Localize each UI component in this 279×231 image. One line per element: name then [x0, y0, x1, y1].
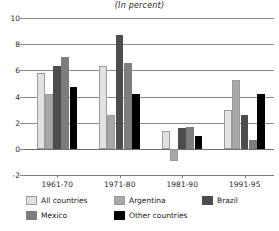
- bar: [162, 131, 170, 149]
- legend-swatch-icon: [114, 196, 125, 205]
- y-tick-mark-10: [20, 18, 24, 19]
- y-tick-label: 0: [15, 144, 20, 153]
- y-tick-mark-8: [20, 44, 24, 45]
- legend-item[interactable]: Argentina: [114, 196, 166, 205]
- legend-swatch-icon: [26, 211, 37, 220]
- bar-chart: (In percent) -20246810 1961-701971-80198…: [0, 0, 279, 231]
- x-tick-mark: [57, 175, 58, 178]
- legend-swatch-icon: [202, 196, 213, 205]
- bar: [249, 140, 257, 149]
- x-axis-line: [24, 175, 274, 176]
- legend-item[interactable]: Brazil: [202, 196, 238, 205]
- y-tick-mark-2: [20, 123, 24, 124]
- chart-title: (In percent): [0, 1, 279, 10]
- y-tick-label: 4: [15, 92, 20, 101]
- x-tick-label: 1971-80: [104, 180, 135, 189]
- bar: [132, 94, 140, 149]
- x-tick-mark: [182, 175, 183, 178]
- bar-group-1991-95: [224, 18, 265, 175]
- bar: [116, 35, 124, 149]
- bar: [178, 128, 186, 149]
- y-tick-label: 6: [15, 66, 20, 75]
- legend-label: All countries: [41, 196, 88, 205]
- legend-label: Other countries: [129, 211, 188, 220]
- legend-item[interactable]: Other countries: [114, 211, 188, 220]
- bar: [241, 115, 249, 149]
- y-tick-mark-6: [20, 70, 24, 71]
- x-tick-mark: [245, 175, 246, 178]
- y-tick-label: 10: [10, 14, 20, 23]
- bar-group-1961-70: [37, 18, 78, 175]
- y-tick-mark-0: [20, 149, 24, 150]
- bar: [224, 110, 232, 149]
- bar: [170, 149, 178, 161]
- bar: [124, 63, 132, 149]
- legend-label: Mexico: [41, 211, 67, 220]
- legend-swatch-icon: [26, 196, 37, 205]
- x-tick-label: 1991-95: [229, 180, 260, 189]
- bar: [257, 94, 265, 149]
- x-tick-mark: [120, 175, 121, 178]
- y-tick-label: -2: [13, 171, 20, 180]
- legend-label: Brazil: [217, 196, 238, 205]
- bar-group-1971-80: [99, 18, 140, 175]
- y-tick-label: 8: [15, 40, 20, 49]
- legend-item[interactable]: Mexico: [26, 211, 67, 220]
- legend-item[interactable]: All countries: [26, 196, 88, 205]
- y-tick-mark-4: [20, 97, 24, 98]
- bar: [99, 66, 107, 148]
- x-tick-label: 1981-90: [167, 180, 198, 189]
- bar: [45, 94, 53, 149]
- bar: [70, 87, 78, 149]
- bar-group-1981-90: [162, 18, 203, 175]
- bar: [186, 127, 194, 149]
- bar: [107, 115, 115, 149]
- bar: [61, 57, 69, 149]
- bar: [232, 80, 240, 149]
- x-tick-label: 1961-70: [42, 180, 73, 189]
- bar: [53, 66, 61, 148]
- plot-area: -20246810: [24, 18, 274, 175]
- legend-swatch-icon: [114, 211, 125, 220]
- bar: [37, 73, 45, 149]
- y-tick-label: 2: [15, 118, 20, 127]
- legend-label: Argentina: [129, 196, 166, 205]
- bar: [195, 136, 203, 149]
